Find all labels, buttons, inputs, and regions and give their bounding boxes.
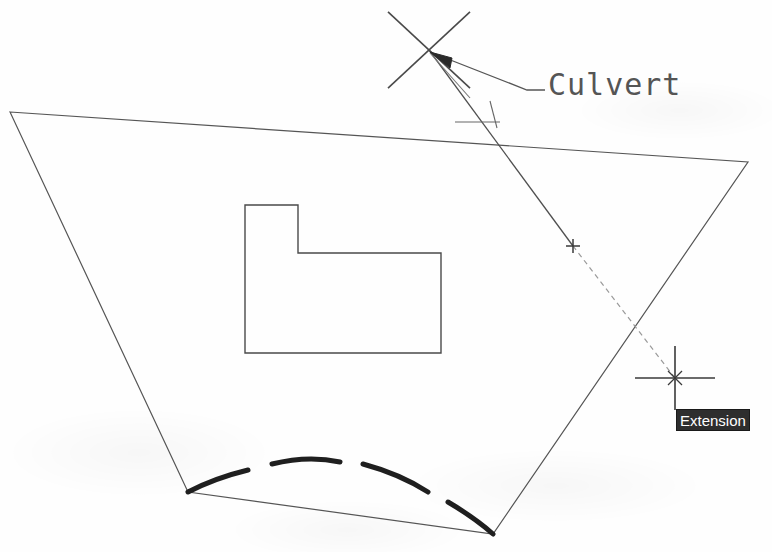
extension-dashed-line[interactable] xyxy=(573,246,675,378)
arc-segment[interactable] xyxy=(188,470,248,492)
osnap-intersection-marker[interactable] xyxy=(388,12,470,88)
extension-plus-marker xyxy=(566,239,580,253)
culvert-text-label: Culvert xyxy=(548,68,681,102)
cad-drawing-canvas[interactable]: Culvert Extension xyxy=(0,0,772,552)
arc-segment[interactable] xyxy=(272,459,340,464)
perpendicular-tick-vertical xyxy=(490,101,497,128)
heavy-dashed-arc-group[interactable] xyxy=(188,459,493,534)
extension-snap-tooltip: Extension xyxy=(676,409,750,431)
building-footprint-polygon[interactable] xyxy=(245,205,441,353)
arc-segment[interactable] xyxy=(363,464,428,492)
crosshair-cursor[interactable] xyxy=(635,346,715,410)
